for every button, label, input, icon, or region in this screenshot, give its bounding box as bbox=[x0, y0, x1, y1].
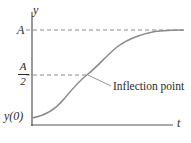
inflection-leader-line bbox=[88, 75, 111, 86]
inflection-point-annotation: Inflection point bbox=[113, 81, 184, 93]
fraction-numerator: A bbox=[16, 61, 30, 73]
logistic-curve-figure: y t A A 2 y(0) Inflection point bbox=[0, 0, 191, 143]
y-axis-label: y bbox=[33, 4, 38, 16]
y-tick-label-asymptote: A bbox=[17, 24, 24, 36]
fraction-denominator: 2 bbox=[16, 76, 30, 88]
y-tick-label-initial-value: y(0) bbox=[4, 110, 23, 122]
y-tick-label-half-asymptote: A 2 bbox=[16, 61, 30, 87]
logistic-curve bbox=[32, 30, 183, 118]
t-axis-label: t bbox=[177, 117, 180, 129]
